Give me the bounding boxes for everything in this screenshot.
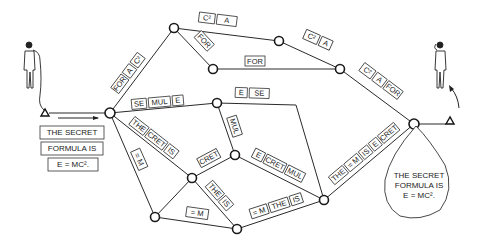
- packet: THE: [271, 198, 288, 211]
- node-b: [170, 24, 179, 33]
- packet: MUL: [151, 97, 168, 107]
- arrow-right-icon: [58, 116, 99, 120]
- packet: E: [239, 88, 244, 97]
- node-a: [105, 108, 115, 118]
- node-e: [336, 65, 345, 74]
- packets-path-i-k: THE IS: [205, 180, 234, 211]
- packet: CRET: [264, 155, 287, 172]
- packet-network-diagram: THE SECRET FORMULA IS E = MC².: [0, 0, 486, 248]
- sender-person-icon: [24, 42, 44, 110]
- curved-arrow-up-icon: [449, 85, 459, 108]
- packet: MUL: [228, 117, 241, 135]
- packets-path-e-f: C² A FOR: [359, 63, 403, 100]
- packet: C²: [202, 13, 211, 23]
- packets-path-k-l: = M THE IS: [249, 193, 303, 219]
- packet: SE: [254, 89, 264, 98]
- node-l: [320, 196, 329, 205]
- packets-path-d-e: FOR: [245, 56, 265, 66]
- network-nodes: [105, 24, 419, 234]
- received-message-line-2: FORMULA IS: [395, 181, 443, 190]
- packet: = M: [252, 205, 267, 217]
- node-d: [209, 65, 218, 74]
- node-g: [213, 99, 222, 108]
- original-message-line-1: THE SECRET: [47, 128, 98, 137]
- packet: SE: [134, 99, 145, 109]
- receiver-person-icon: [435, 42, 446, 88]
- source-terminal-icon: [41, 109, 49, 116]
- node-c: [275, 37, 284, 46]
- node-i: [188, 174, 197, 183]
- packets-path-c-e: C² A: [303, 29, 334, 50]
- packets-path-b-d: FOR: [194, 31, 214, 52]
- received-message-line-3: E = MC².: [403, 191, 435, 200]
- node-h: [231, 151, 240, 160]
- packets-path-j-k: = M: [186, 207, 209, 220]
- packets-path-b-c: C² A: [198, 12, 237, 27]
- packet: = M: [190, 208, 204, 219]
- packet: FOR: [247, 57, 263, 66]
- received-message-bubble: THE SECRET FORMULA IS E = MC².: [385, 126, 449, 218]
- destination-terminal-icon: [446, 117, 454, 124]
- original-message-line-3: E = MC².: [57, 160, 89, 169]
- received-message-line-1: THE SECRET: [394, 171, 445, 180]
- node-k: [233, 225, 242, 234]
- packets-path-g-h: MUL: [227, 115, 243, 137]
- packets-path-g-l: E SE: [235, 87, 269, 98]
- original-message: THE SECRET FORMULA IS E = MC².: [40, 126, 104, 171]
- packet: E: [175, 96, 181, 105]
- original-message-line-2: FORMULA IS: [48, 144, 96, 153]
- node-j: [151, 213, 160, 222]
